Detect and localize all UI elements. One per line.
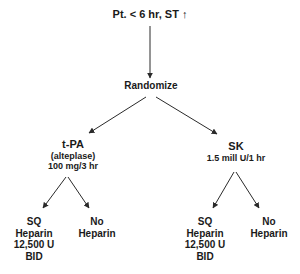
tpa-detail-1: (alteplase) (48, 151, 98, 161)
arrow-sk-to-sq-heparin (213, 172, 234, 208)
sk-sq-line3: 12,500 U (185, 239, 226, 251)
tpa-name: t-PA (48, 138, 98, 151)
tpa-sq-line4: BID (14, 251, 55, 263)
tpa-sq-line2: Heparin (14, 228, 55, 240)
sk-detail-1: 1.5 mill U/1 hr (207, 153, 266, 163)
tpa-detail-2: 100 mg/3 hr (48, 161, 98, 171)
arrow-tpa-to-no-heparin (68, 177, 89, 208)
sk-sq-line1: SQ (185, 216, 226, 228)
arrow-randomize-to-tpa (89, 97, 146, 133)
tpa-sq-heparin-node: SQ Heparin 12,500 U BID (14, 216, 55, 262)
arrow-randomize-to-sk (156, 97, 217, 134)
sk-no-heparin-node: No Heparin (250, 216, 287, 239)
tpa-no-line1: No (78, 216, 115, 228)
tpa-sq-line1: SQ (14, 216, 55, 228)
sk-sq-line2: Heparin (185, 228, 226, 240)
root-label: Pt. < 6 hr, ST ↑ (113, 8, 188, 21)
arrow-sk-to-no-heparin (236, 172, 259, 208)
sk-node: SK 1.5 mill U/1 hr (207, 140, 266, 163)
tpa-sq-line3: 12,500 U (14, 239, 55, 251)
sk-no-line2: Heparin (250, 228, 287, 240)
sk-name: SK (207, 140, 266, 153)
randomize-node: Randomize (124, 80, 177, 92)
tpa-no-line2: Heparin (78, 228, 115, 240)
arrow-tpa-to-sq-heparin (43, 177, 66, 208)
tpa-node: t-PA (alteplase) 100 mg/3 hr (48, 138, 98, 171)
sk-no-line1: No (250, 216, 287, 228)
sk-sq-line4: BID (185, 251, 226, 263)
sk-sq-heparin-node: SQ Heparin 12,500 U BID (185, 216, 226, 262)
root-node: Pt. < 6 hr, ST ↑ (113, 8, 188, 21)
randomize-label: Randomize (124, 80, 177, 92)
tpa-no-heparin-node: No Heparin (78, 216, 115, 239)
